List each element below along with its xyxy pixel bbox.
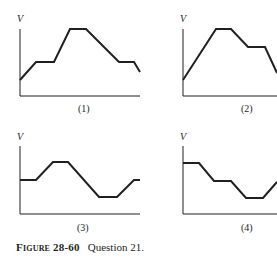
panel-4-axis-label: V: [180, 131, 186, 142]
panel-3-axes: [20, 146, 140, 214]
panel-1-label: (1): [78, 103, 90, 114]
panel-1-plot: [20, 29, 140, 96]
figure-caption: Figure 28-60Question 21.: [16, 241, 144, 253]
panel-2-axis-label: V: [180, 13, 186, 24]
figure-number: Figure 28-60: [16, 241, 80, 253]
panel-2-label: (2): [241, 103, 253, 114]
panel-2-curve: [183, 29, 277, 80]
figure-graphics: [0, 0, 277, 259]
panel-4-plot: [183, 146, 277, 214]
panel-2-plot: [183, 29, 277, 96]
panel-2-axes: [183, 29, 277, 96]
panel-3-axis-label: V: [17, 131, 23, 142]
panel-3-label: (3): [77, 222, 89, 233]
panel-4-label: (4): [241, 222, 253, 233]
panel-1-curve: [20, 29, 140, 80]
panel-3-curve: [20, 162, 140, 197]
panel-3-plot: [20, 146, 140, 214]
panel-1-axis-label: V: [17, 13, 23, 24]
figure-caption-text: Question 21.: [88, 241, 144, 253]
panel-4-curve: [183, 163, 277, 198]
